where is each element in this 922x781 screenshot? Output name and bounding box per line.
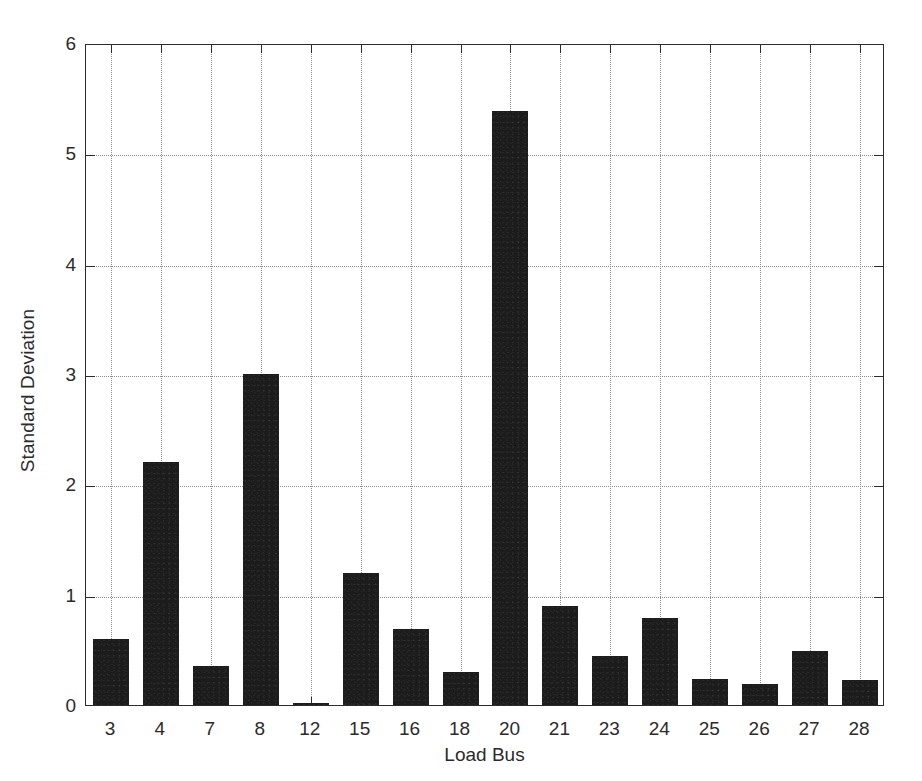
y-gridline (86, 376, 883, 377)
x-tick-mark (760, 45, 761, 53)
x-tick-label: 25 (699, 718, 720, 740)
x-tick-mark (161, 45, 162, 53)
x-axis-title: Load Bus (85, 744, 884, 766)
x-tick-label: 23 (599, 718, 620, 740)
y-axis-tick-labels: 0123456 (0, 0, 85, 781)
x-gridline (860, 45, 861, 705)
y-gridline (86, 266, 883, 267)
bar[interactable] (542, 606, 578, 705)
y-tick-mark (874, 266, 883, 267)
x-gridline (660, 45, 661, 705)
bar[interactable] (642, 618, 678, 705)
y-tick-label: 4 (25, 254, 85, 276)
y-tick-label: 0 (25, 695, 85, 717)
bar[interactable] (393, 629, 429, 705)
x-tick-mark (810, 45, 811, 53)
x-tick-label: 15 (349, 718, 370, 740)
x-gridline (411, 45, 412, 705)
x-axis-tick-labels: 3478121516182021232425262728 (85, 706, 884, 746)
bar[interactable] (243, 374, 279, 705)
x-tick-mark (710, 45, 711, 53)
x-tick-mark (461, 45, 462, 53)
x-tick-mark (311, 45, 312, 53)
x-tick-label: 4 (155, 718, 166, 740)
y-tick-mark (86, 486, 95, 487)
x-tick-mark (860, 45, 861, 53)
y-tick-mark (86, 266, 95, 267)
x-tick-mark (111, 45, 112, 53)
bar[interactable] (792, 651, 828, 705)
x-tick-label: 8 (254, 718, 265, 740)
bar[interactable] (443, 672, 479, 705)
y-tick-mark (86, 597, 95, 598)
bar[interactable] (293, 703, 329, 705)
x-gridline (211, 45, 212, 705)
y-gridline (86, 597, 883, 598)
x-gridline (311, 45, 312, 705)
x-tick-mark (211, 45, 212, 53)
x-tick-label: 27 (799, 718, 820, 740)
y-tick-mark (874, 597, 883, 598)
y-tick-mark (86, 155, 95, 156)
y-tick-label: 3 (25, 364, 85, 386)
x-tick-mark (610, 45, 611, 53)
bar[interactable] (842, 680, 878, 705)
y-tick-label: 5 (25, 143, 85, 165)
y-gridline (86, 155, 883, 156)
x-tick-label: 18 (449, 718, 470, 740)
x-tick-label: 24 (649, 718, 670, 740)
chart-figure: Standard Deviation 0123456 3478121516182… (0, 0, 922, 781)
x-tick-label: 16 (399, 718, 420, 740)
bar[interactable] (492, 111, 528, 705)
x-tick-mark (411, 45, 412, 53)
y-tick-mark (874, 155, 883, 156)
bar[interactable] (93, 639, 129, 705)
bar[interactable] (742, 684, 778, 705)
plot-area (85, 44, 884, 706)
x-tick-label: 12 (299, 718, 320, 740)
x-gridline (810, 45, 811, 705)
y-tick-mark (874, 376, 883, 377)
x-gridline (610, 45, 611, 705)
x-tick-mark (261, 45, 262, 53)
x-gridline (710, 45, 711, 705)
bar[interactable] (143, 462, 179, 705)
y-tick-label: 2 (25, 474, 85, 496)
y-tick-label: 1 (25, 585, 85, 607)
bar[interactable] (193, 666, 229, 705)
x-gridline (111, 45, 112, 705)
x-tick-label: 21 (549, 718, 570, 740)
x-gridline (760, 45, 761, 705)
x-tick-label: 20 (499, 718, 520, 740)
x-tick-mark (560, 45, 561, 53)
x-tick-label: 7 (205, 718, 216, 740)
x-gridline (461, 45, 462, 705)
x-tick-mark (510, 45, 511, 53)
y-gridline (86, 486, 883, 487)
x-tick-label: 3 (105, 718, 116, 740)
x-tick-mark (660, 45, 661, 53)
y-tick-mark (874, 486, 883, 487)
bar[interactable] (692, 679, 728, 705)
y-tick-mark (86, 376, 95, 377)
x-tick-label: 26 (749, 718, 770, 740)
x-tick-label: 28 (848, 718, 869, 740)
y-tick-label: 6 (25, 33, 85, 55)
x-tick-mark (361, 45, 362, 53)
bar[interactable] (343, 573, 379, 705)
bar[interactable] (592, 656, 628, 705)
